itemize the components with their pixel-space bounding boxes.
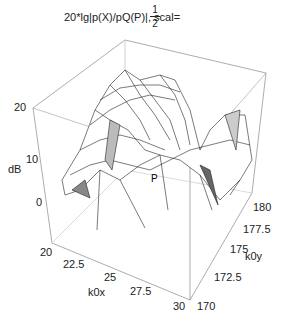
z-tick-10: 10 — [26, 153, 38, 165]
y-tick-172-5: 172.5 — [214, 271, 242, 283]
x-tick-30: 30 — [173, 300, 185, 312]
y-tick-180: 180 — [253, 201, 271, 213]
z-tick-20: 20 — [14, 101, 26, 113]
surface-mesh — [62, 70, 252, 230]
point-annotation: P — [151, 173, 158, 184]
z-tick-0: 0 — [36, 196, 42, 208]
y-axis-label: k0y — [245, 250, 262, 262]
z-axis-label: dB — [8, 163, 21, 175]
x-tick-20: 20 — [40, 246, 52, 258]
x-tick-27-5: 27.5 — [130, 285, 151, 297]
x-tick-25: 25 — [104, 271, 116, 283]
x-tick-22-5: 22.5 — [63, 258, 84, 270]
y-tick-177-5: 177.5 — [243, 223, 271, 235]
y-tick-170: 170 — [197, 300, 215, 312]
x-axis-label: k0x — [88, 286, 105, 298]
